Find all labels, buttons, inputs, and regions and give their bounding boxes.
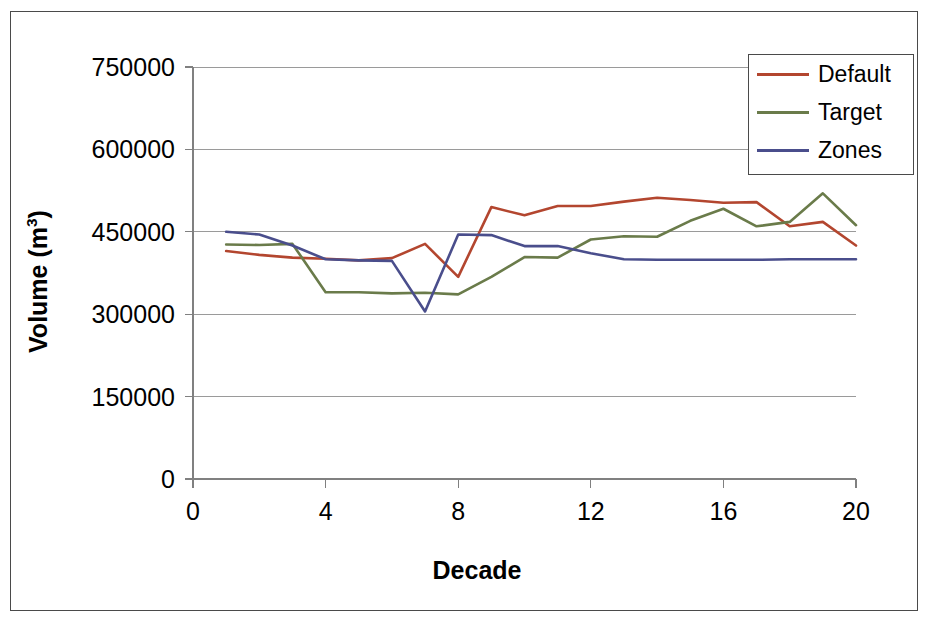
x-tick-label: 20 bbox=[842, 497, 870, 526]
series-line-default bbox=[226, 198, 856, 277]
y-tick-label: 0 bbox=[11, 465, 175, 494]
chart-legend: DefaultTargetZones bbox=[748, 54, 914, 175]
y-axis-title-superscript: 3 bbox=[23, 218, 40, 227]
x-tick-label: 4 bbox=[319, 497, 333, 526]
x-tick-label: 12 bbox=[577, 497, 605, 526]
legend-item-label: Zones bbox=[818, 139, 882, 162]
legend-color-swatch bbox=[757, 73, 809, 76]
legend-item-default[interactable]: Default bbox=[749, 55, 913, 93]
series-line-zones bbox=[226, 232, 856, 312]
legend-item-label: Target bbox=[818, 101, 882, 124]
legend-item-zones[interactable]: Zones bbox=[749, 131, 913, 169]
series-line-target bbox=[226, 193, 856, 294]
x-tick-label: 16 bbox=[709, 497, 737, 526]
legend-color-swatch bbox=[757, 111, 809, 114]
y-axis-title: Volume (m3) bbox=[24, 162, 53, 402]
x-tick-label: 0 bbox=[186, 497, 200, 526]
series-lines-group bbox=[226, 193, 856, 311]
x-axis-title: Decade bbox=[11, 556, 932, 585]
y-tick-label: 600000 bbox=[11, 135, 175, 164]
chart-page: 0150000300000450000600000750000 04812162… bbox=[0, 0, 932, 629]
chart-frame: 0150000300000450000600000750000 04812162… bbox=[10, 11, 918, 611]
legend-item-label: Default bbox=[818, 63, 891, 86]
legend-item-target[interactable]: Target bbox=[749, 93, 913, 131]
legend-color-swatch bbox=[757, 149, 809, 152]
y-tick-label: 750000 bbox=[11, 53, 175, 82]
y-axis-title-base: Volume (m bbox=[24, 227, 52, 353]
x-tick-label: 8 bbox=[451, 497, 465, 526]
y-axis-title-close: ) bbox=[24, 210, 52, 218]
